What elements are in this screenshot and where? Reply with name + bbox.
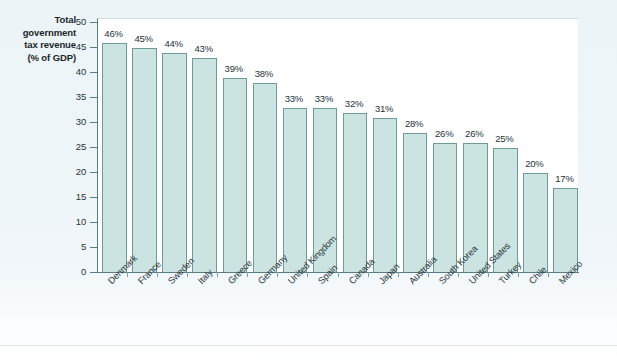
y-axis-tick [90,72,97,73]
y-axis-tick [90,97,97,98]
x-axis-tick [127,272,128,277]
bar-value-label: 26% [428,128,461,139]
y-axis-tick [90,222,97,223]
bar-value-label: 28% [398,118,431,129]
bar[interactable] [283,108,308,273]
bar[interactable] [192,58,217,273]
y-axis-tick-label: 25 [60,141,86,152]
bar[interactable] [253,83,278,273]
y-axis-tick [90,47,97,48]
x-axis-tick [338,272,339,277]
axis-title-line-3: (% of GDP) [2,52,76,65]
page-divider [0,345,617,346]
bar-value-label: 33% [278,93,311,104]
x-axis-tick [157,272,158,277]
bar[interactable] [433,143,458,273]
bar-value-label: 17% [548,173,581,184]
bars-container [98,19,578,273]
bar-value-label: 25% [488,133,521,144]
bar-value-label: 45% [127,33,160,44]
x-axis-tick [368,272,369,277]
bar[interactable] [162,53,187,273]
x-axis-tick [307,272,308,277]
x-axis-tick [187,272,188,277]
bar[interactable] [523,173,548,273]
y-axis-tick [90,247,97,248]
y-axis-tick-label: 15 [60,191,86,202]
bar[interactable] [373,118,398,273]
x-axis-tick [518,272,519,277]
y-axis-tick-label: 20 [60,166,86,177]
y-axis-tick [90,172,97,173]
x-axis-tick [398,272,399,277]
y-axis-tick [90,122,97,123]
x-axis-tick [488,272,489,277]
y-axis-tick [90,197,97,198]
y-axis-tick-label: 50 [60,16,86,27]
y-axis-tick-label: 10 [60,216,86,227]
bar-value-label: 39% [218,63,251,74]
bar-value-label: 32% [338,98,371,109]
bar-value-label: 38% [248,68,281,79]
y-axis-tick [90,22,97,23]
x-axis-tick [247,272,248,277]
bar-value-label: 33% [308,93,341,104]
bar[interactable] [102,43,127,273]
bar[interactable] [343,113,368,273]
bar-value-label: 44% [157,38,190,49]
x-axis-tick [548,272,549,277]
bar-value-label: 46% [97,28,130,39]
bar-value-label: 20% [518,158,551,169]
y-axis-tick-label: 30 [60,116,86,127]
x-axis-tick [217,272,218,277]
bar[interactable] [132,48,157,273]
bar[interactable] [403,133,428,273]
x-axis-tick [277,272,278,277]
y-axis-tick [90,272,97,273]
y-axis-tick-label: 40 [60,66,86,77]
y-axis-tick-label: 0 [60,266,86,277]
bar-value-label: 26% [458,128,491,139]
y-axis-tick-label: 35 [60,91,86,102]
chart-plot-area [97,18,578,273]
x-axis-tick [458,272,459,277]
y-axis-tick-label: 45 [60,41,86,52]
y-axis-tick-label: 5 [60,241,86,252]
y-axis-tick [90,147,97,148]
bar[interactable] [223,78,248,273]
bar-value-label: 31% [368,103,401,114]
bar-value-label: 43% [187,43,220,54]
x-axis-tick [428,272,429,277]
